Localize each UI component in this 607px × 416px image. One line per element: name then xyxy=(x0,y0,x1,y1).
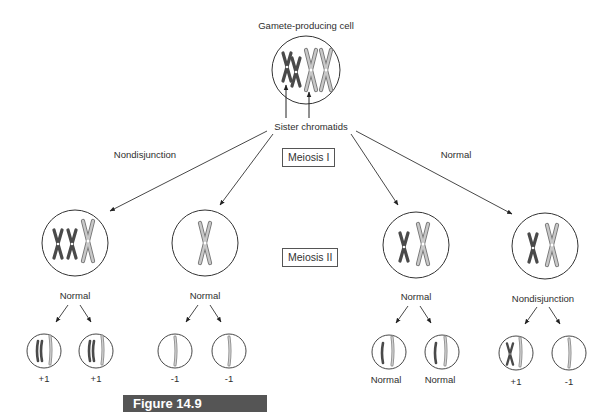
meiosis2-box: Meiosis II xyxy=(282,248,338,267)
meiosis2-arrows xyxy=(56,305,560,324)
gamete-6-label: Normal xyxy=(425,375,456,385)
meiosis1-arrows xyxy=(110,131,512,214)
meiosis2-cell-2-label: Normal xyxy=(190,291,221,301)
light-chromosome-icon xyxy=(306,50,316,90)
meiosis2-cell-3 xyxy=(383,212,449,278)
gamete-3-label: -1 xyxy=(171,374,179,384)
dark-chromosome-icon xyxy=(292,58,300,86)
figure-caption-label: Figure 14.9 xyxy=(123,395,267,412)
gamete-8-label: -1 xyxy=(565,377,573,387)
normal-branch-label: Normal xyxy=(441,150,472,160)
gamete-4-label: -1 xyxy=(225,374,233,384)
dark-chromosome-icon xyxy=(283,53,291,81)
meiosis-diagram xyxy=(0,0,607,416)
nondisjunction-branch-label: Nondisjunction xyxy=(114,150,176,160)
meiosis2-cell-4 xyxy=(512,213,578,279)
meiosis2-cell-4-label: Nondisjunction xyxy=(512,294,574,304)
gamete-1 xyxy=(27,334,61,368)
meiosis2-cell-3-label: Normal xyxy=(401,292,432,302)
light-chromosome-icon xyxy=(321,50,331,90)
gamete-3 xyxy=(158,334,192,368)
gamete-5-label: Normal xyxy=(371,375,402,385)
gamete-producing-cell-label: Gamete-producing cell xyxy=(258,21,354,31)
gamete-6 xyxy=(425,335,459,369)
sister-chromatids-label: Sister chromatids xyxy=(274,122,347,132)
meiosis1-box: Meiosis I xyxy=(282,148,335,167)
gamete-7 xyxy=(499,336,533,370)
gamete-7-label: +1 xyxy=(511,377,522,387)
meiosis2-cell-1 xyxy=(42,210,108,276)
meiosis2-cell-2 xyxy=(172,210,238,276)
gamete-producing-cell xyxy=(272,36,340,104)
gamete-2 xyxy=(79,334,113,368)
gamete-2-label: +1 xyxy=(91,374,102,384)
meiosis2-cell-1-label: Normal xyxy=(60,291,91,301)
gamete-8 xyxy=(552,336,586,370)
gamete-4 xyxy=(212,334,246,368)
gamete-5 xyxy=(372,335,406,369)
gamete-cells xyxy=(27,334,586,370)
gamete-1-label: +1 xyxy=(39,374,50,384)
